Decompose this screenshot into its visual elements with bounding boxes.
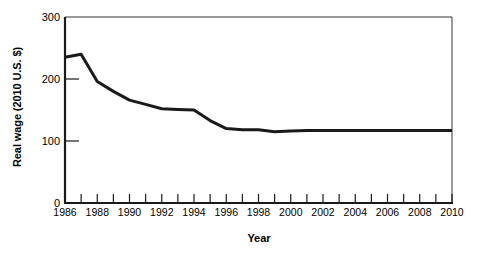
x-tick-label: 1988: [80, 206, 114, 218]
x-tick-label: 1996: [209, 206, 243, 218]
x-tick-label: 2006: [371, 206, 405, 218]
x-axis-title: Year: [65, 232, 453, 244]
x-tick-label: 1994: [177, 206, 211, 218]
x-tick-label: 1986: [48, 206, 82, 218]
x-axis-ticks: [65, 194, 452, 203]
x-tick-label: 1990: [113, 206, 147, 218]
x-tick-label: 2000: [274, 206, 308, 218]
x-tick-label: 2002: [306, 206, 340, 218]
y-axis-ticks: [65, 79, 79, 141]
x-tick-label: 1998: [242, 206, 276, 218]
axis-frame: [64, 17, 453, 203]
x-tick-label: 2004: [338, 206, 372, 218]
x-axis-tick-labels: 1986198819901992199419961998200020022004…: [0, 206, 484, 222]
x-tick-label: 2010: [435, 206, 469, 218]
x-tick-label: 2008: [403, 206, 437, 218]
x-tick-label: 1992: [145, 206, 179, 218]
data-series-line: [65, 54, 452, 132]
chart-figure: Real wage (2010 U.S. $) 300 200 100 0 19…: [0, 0, 484, 260]
